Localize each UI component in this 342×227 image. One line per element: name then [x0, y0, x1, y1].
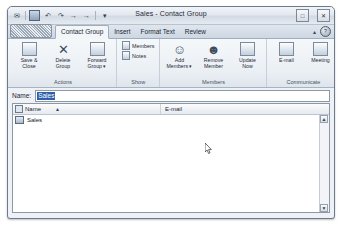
column-header-email-label: E-mail: [165, 106, 182, 112]
title-bar: ✉ ↶ ↷ → → ▾ Sales - Contact Group □ ✕: [8, 7, 334, 25]
name-input[interactable]: Sales: [35, 90, 330, 102]
ribbon-group-show-label: Show: [120, 79, 156, 87]
column-header-name-label: Name: [25, 106, 41, 112]
contact-group-icon: [15, 116, 24, 124]
ribbon-group-members-items: ☺ Add Members ▾ ☻ Remove Member Update N…: [163, 41, 263, 79]
meeting-button[interactable]: Meeting: [304, 41, 335, 64]
name-input-value: Sales: [37, 92, 55, 100]
forward-group-button[interactable]: Forward Group ▾: [81, 41, 113, 69]
add-members-label: Add Members ▾: [166, 58, 192, 69]
table-row[interactable]: Sales: [13, 115, 329, 124]
name-column-icon: [15, 105, 23, 113]
member-list-body[interactable]: Sales ▲ ▼: [13, 115, 329, 212]
tab-format-text[interactable]: Format Text: [136, 26, 180, 38]
delete-x-icon: ✕: [54, 41, 72, 57]
members-label: Members: [132, 43, 154, 49]
ribbon: Save & Close ✕ Delete Group Forward Grou…: [8, 39, 334, 88]
notes-button[interactable]: Notes: [120, 51, 148, 60]
remove-member-icon: ☻: [204, 41, 222, 57]
ribbon-group-members-label: Members: [163, 79, 263, 87]
restore-button[interactable]: □: [296, 9, 309, 22]
meeting-icon: [311, 41, 329, 57]
forward-group-icon: [88, 41, 106, 57]
email-label: E-mail: [279, 58, 294, 64]
delete-group-button[interactable]: ✕ Delete Group: [47, 41, 79, 69]
ribbon-tab-bar: Contact Group Insert Format Text Review …: [8, 25, 334, 39]
name-row: Name: Sales: [8, 88, 334, 103]
window-controls: □ ✕: [296, 9, 330, 22]
notes-icon: [122, 52, 130, 60]
notes-label: Notes: [132, 53, 146, 59]
vertical-scrollbar[interactable]: ▲ ▼: [319, 115, 329, 212]
email-button[interactable]: E-mail: [270, 41, 302, 64]
add-members-icon: ☺: [170, 41, 188, 57]
save-and-close-button[interactable]: Save & Close: [13, 41, 45, 69]
collapse-ribbon-icon[interactable]: ▴: [313, 28, 316, 35]
tab-bar-right-controls: ▴ ?: [313, 26, 331, 37]
remove-member-label: Remove Member: [204, 58, 223, 69]
scroll-up-button[interactable]: ▲: [320, 115, 328, 123]
tab-review[interactable]: Review: [180, 26, 211, 38]
update-now-icon: [238, 41, 256, 57]
members-icon: [122, 42, 130, 50]
mouse-cursor: [205, 143, 212, 154]
ribbon-group-communicate-label: Communicate: [270, 79, 335, 87]
ribbon-group-communicate: E-mail Meeting Communicate: [267, 39, 335, 87]
forward-group-label: Forward Group ▾: [87, 58, 106, 69]
members-button[interactable]: Members: [120, 41, 156, 50]
scroll-down-button[interactable]: ▼: [320, 204, 328, 212]
ribbon-group-actions: Save & Close ✕ Delete Group Forward Grou…: [10, 39, 117, 87]
save-and-close-label: Save & Close: [21, 58, 38, 69]
window-title: Sales - Contact Group: [8, 10, 334, 17]
save-and-close-icon: [20, 41, 38, 57]
ribbon-group-show: Members Notes Show: [117, 39, 160, 87]
member-list-header: Name ▲ E-mail: [13, 104, 329, 115]
sort-ascending-icon: ▲: [55, 106, 60, 112]
ribbon-group-actions-label: Actions: [13, 79, 113, 87]
row-name-cell: Sales: [27, 117, 42, 123]
ribbon-group-show-items: Members Notes: [120, 41, 156, 79]
update-now-button[interactable]: Update Now: [231, 41, 263, 69]
delete-group-label: Delete Group: [56, 58, 71, 69]
tab-insert[interactable]: Insert: [109, 26, 135, 38]
column-header-name[interactable]: Name ▲: [13, 104, 161, 114]
member-list: Name ▲ E-mail Sales ▲ ▼: [12, 103, 330, 213]
meeting-label: Meeting: [311, 58, 329, 64]
office-button-icon[interactable]: [10, 24, 52, 38]
contact-group-window: ✉ ↶ ↷ → → ▾ Sales - Contact Group □ ✕ Co…: [7, 6, 335, 219]
name-field-label: Name:: [12, 92, 31, 99]
remove-member-button[interactable]: ☻ Remove Member: [197, 41, 229, 69]
ribbon-group-members: ☺ Add Members ▾ ☻ Remove Member Update N…: [160, 39, 267, 87]
email-icon: [277, 41, 295, 57]
column-header-email[interactable]: E-mail: [161, 104, 329, 114]
update-now-label: Update Now: [239, 58, 256, 69]
help-icon[interactable]: ?: [320, 26, 331, 37]
ribbon-group-communicate-items: E-mail Meeting: [270, 41, 335, 79]
add-members-button[interactable]: ☺ Add Members ▾: [163, 41, 195, 69]
close-button[interactable]: ✕: [317, 9, 330, 22]
tab-contact-group[interactable]: Contact Group: [55, 25, 109, 39]
ribbon-group-actions-items: Save & Close ✕ Delete Group Forward Grou…: [13, 41, 113, 79]
